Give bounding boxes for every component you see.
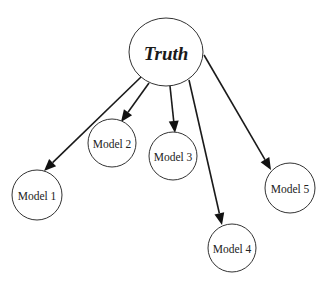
edge-truth-to-model3 bbox=[170, 86, 174, 121]
node-model5: Model 5 bbox=[265, 163, 315, 213]
edge-truth-to-model5 bbox=[204, 55, 265, 160]
truth-models-diagram: Truth Model 1Model 2Model 3Model 4Model … bbox=[0, 0, 327, 285]
node-model3: Model 3 bbox=[149, 132, 197, 180]
model3-label: Model 3 bbox=[154, 151, 193, 163]
model5-label: Model 5 bbox=[271, 183, 310, 195]
arrowhead-icon bbox=[261, 157, 271, 170]
model2-label: Model 2 bbox=[93, 138, 132, 150]
arrowhead-icon bbox=[121, 109, 132, 122]
node-model4: Model 4 bbox=[208, 224, 256, 272]
node-model1: Model 1 bbox=[12, 170, 62, 220]
arrowhead-icon bbox=[169, 121, 179, 133]
node-model2: Model 2 bbox=[88, 119, 136, 167]
truth-label: Truth bbox=[144, 43, 189, 64]
node-truth: Truth bbox=[129, 18, 203, 86]
model1-label: Model 1 bbox=[18, 190, 57, 202]
model4-label: Model 4 bbox=[213, 243, 252, 255]
model-nodes-group: Model 1Model 2Model 3Model 4Model 5 bbox=[12, 119, 315, 272]
arrowhead-icon bbox=[214, 212, 224, 225]
